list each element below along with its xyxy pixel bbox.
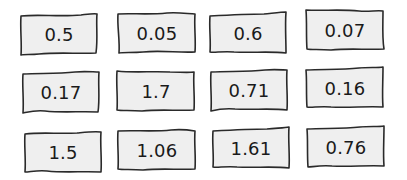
card-value: 0.05	[117, 12, 197, 54]
number-card: 0.76	[306, 126, 386, 168]
number-card: 0.07	[305, 9, 385, 51]
number-card-grid: 0.5 0.05 0.6 0.07 0.17 1.7 0.	[0, 0, 407, 180]
number-card: 1.06	[117, 129, 197, 171]
number-card: 0.05	[117, 12, 197, 54]
card-value: 0.17	[21, 71, 101, 113]
number-card: 0.16	[305, 67, 385, 109]
number-card: 0.71	[209, 69, 289, 111]
card-value: 0.5	[19, 13, 99, 55]
card-value: 0.76	[306, 126, 386, 168]
card-value: 1.7	[116, 70, 196, 112]
card-value: 1.61	[211, 127, 291, 169]
card-value: 1.5	[23, 131, 103, 173]
card-value: 1.06	[117, 129, 197, 171]
number-card: 1.7	[116, 70, 196, 112]
number-card: 1.61	[211, 127, 291, 169]
card-value: 0.16	[305, 67, 385, 109]
card-value: 0.71	[209, 69, 289, 111]
card-value: 0.07	[305, 9, 385, 51]
number-card: 1.5	[23, 131, 103, 173]
card-value: 0.6	[208, 12, 288, 54]
number-card: 0.5	[19, 13, 99, 55]
number-card: 0.6	[208, 12, 288, 54]
number-card: 0.17	[21, 71, 101, 113]
